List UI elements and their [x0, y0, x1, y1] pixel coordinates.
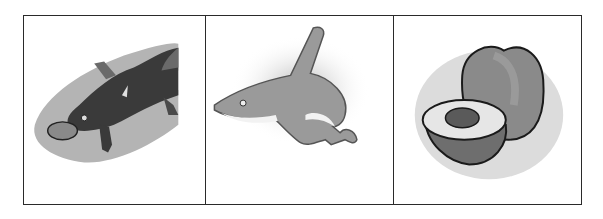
panel-platypus[interactable] — [24, 16, 205, 204]
peach-image — [394, 16, 581, 204]
shark-image — [206, 16, 393, 204]
image-grid — [23, 15, 582, 205]
panel-peach[interactable] — [393, 16, 581, 204]
panel-shark[interactable] — [205, 16, 393, 204]
platypus-image — [24, 16, 205, 204]
